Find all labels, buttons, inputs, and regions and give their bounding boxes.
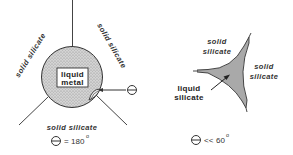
angle-caption-left: = 180 o (52, 133, 90, 146)
panel-non-wetting: liquid metal solid silicate solid silica… (13, 0, 136, 146)
angle-relation: << (204, 136, 214, 145)
liquid-silicate-label-line2: silicate (174, 93, 204, 102)
solid-silicate-right-line2: silicate (250, 72, 279, 81)
degree-symbol: o (86, 133, 89, 139)
liquid-silicate-label-line1: liquid (177, 84, 200, 93)
solid-silicate-upper-line1: solid (207, 37, 227, 46)
solid-silicate-upper-line2: silicate (203, 47, 232, 56)
theta-icon (52, 137, 61, 146)
angle-caption-right: << 60 o (192, 132, 230, 145)
theta-icon (192, 136, 201, 145)
grain-boundary-lower-right (96, 95, 127, 125)
panel-wetting: solid silicate solid silicate liquid sil… (174, 33, 278, 145)
dihedral-angle-diagram: liquid metal solid silicate solid silica… (0, 0, 293, 155)
degree-symbol: o (226, 132, 229, 138)
solid-silicate-label-right: solid silicate (95, 22, 128, 70)
angle-relation: = (64, 137, 69, 146)
grain-boundary-lower-left (19, 97, 48, 125)
solid-silicate-label-bottom: solid silicate (47, 123, 98, 132)
angle-value: 60 (216, 136, 225, 145)
angle-value: 180 (71, 137, 85, 146)
solid-silicate-right-line1: solid (254, 62, 274, 71)
theta-icon (128, 86, 137, 95)
liquid-metal-label-line2: metal (61, 78, 83, 87)
